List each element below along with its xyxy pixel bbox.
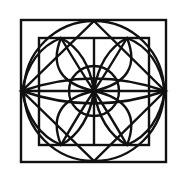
mandala-diagram [0,0,176,180]
arc-top-left [61,38,94,91]
arc-bottom-right [94,91,127,145]
arc-bottom-left [61,91,94,145]
arc-top-right [94,38,127,91]
